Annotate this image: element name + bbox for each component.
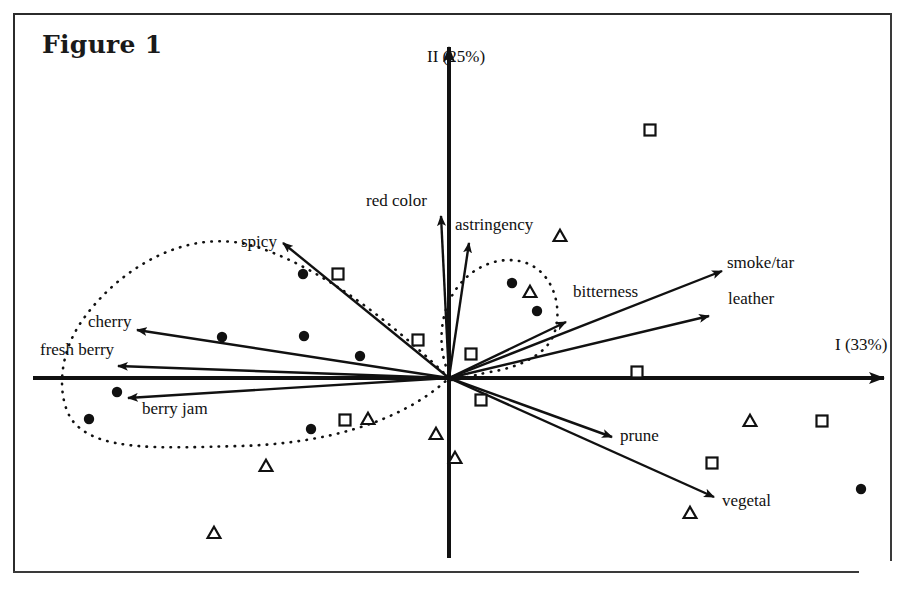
label-berry-jam: berry jam (142, 399, 208, 418)
vector-cherry (137, 330, 449, 378)
label-astringency: astringency (455, 215, 534, 234)
marker-filled-circle (84, 414, 94, 424)
label-vegetal: vegetal (722, 491, 771, 510)
vector-vegetal (449, 378, 714, 497)
marker-filled-circle (299, 331, 309, 341)
marker-open-triangle (362, 413, 375, 424)
marker-filled-circle (507, 278, 517, 288)
sample-markers (84, 125, 866, 539)
x-axis-label: I (33%) (835, 335, 887, 354)
biplot-canvas: red colorspicyastringencybitternesssmoke… (0, 0, 905, 593)
marker-filled-circle (306, 424, 316, 434)
marker-filled-circle (355, 351, 365, 361)
label-spicy: spicy (241, 232, 277, 251)
marker-open-square (340, 415, 351, 426)
label-prune: prune (620, 426, 659, 445)
marker-open-triangle (684, 507, 697, 518)
variable-vectors (118, 216, 722, 497)
label-fresh-berry: fresh berry (40, 340, 115, 359)
y-axis-label: II (25%) (427, 47, 485, 66)
marker-open-triangle (524, 286, 537, 297)
marker-open-triangle (430, 428, 443, 439)
marker-open-square (333, 269, 344, 280)
grouping-regions (62, 241, 557, 447)
marker-open-triangle (260, 460, 273, 471)
vector-spicy (283, 243, 449, 378)
marker-open-square (707, 458, 718, 469)
vector-prune (449, 378, 612, 437)
marker-filled-circle (217, 332, 227, 342)
marker-filled-circle (856, 484, 866, 494)
label-bitterness: bitterness (573, 282, 638, 301)
marker-filled-circle (298, 269, 308, 279)
marker-open-triangle (554, 230, 567, 241)
marker-open-square (413, 335, 424, 346)
vector-berry-jam (128, 378, 449, 398)
label-cherry: cherry (88, 312, 132, 331)
marker-filled-circle (532, 306, 542, 316)
left-group-dotted-outline (62, 241, 449, 447)
label-leather: leather (728, 289, 775, 308)
marker-open-triangle (744, 415, 757, 426)
marker-open-square (817, 416, 828, 427)
marker-filled-circle (112, 387, 122, 397)
right-group-dotted-outline (442, 260, 558, 380)
marker-open-square (645, 125, 656, 136)
marker-open-triangle (208, 527, 221, 538)
label-red-color: red color (366, 191, 427, 210)
label-smoke-tar: smoke/tar (727, 253, 794, 272)
marker-open-square (466, 349, 477, 360)
vector-leather (449, 316, 709, 378)
figure-container: Figure 1 red colorspicyastringencybitter… (0, 0, 905, 593)
marker-open-square (476, 395, 487, 406)
marker-open-square (632, 367, 643, 378)
